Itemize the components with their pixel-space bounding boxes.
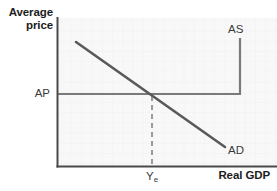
equilibrium-price-label: AP xyxy=(20,87,50,100)
plot-area-background xyxy=(58,18,277,167)
equilibrium-output-label: Ye xyxy=(146,170,158,183)
equilibrium-output-base: Y xyxy=(146,170,154,182)
ad-as-macroeconomic-diagram: Average price Real GDP AP AS AD Ye xyxy=(0,0,277,191)
demand-curve-label: AD xyxy=(228,144,244,157)
equilibrium-output-subscript: e xyxy=(154,175,158,184)
y-axis-label-line1: Average xyxy=(9,6,53,18)
x-axis-label: Real GDP xyxy=(200,169,270,182)
supply-curve-label: AS xyxy=(228,23,243,36)
y-axis-label-line2: price xyxy=(2,19,53,32)
y-axis-label: Average price xyxy=(2,6,53,32)
